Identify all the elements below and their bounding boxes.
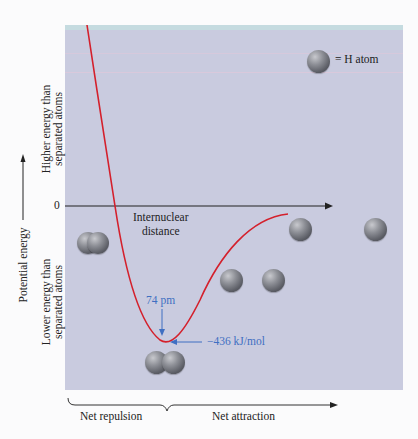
net-attraction-label: Net attraction bbox=[212, 410, 275, 422]
y-upper-line-2: separated atoms bbox=[52, 74, 64, 184]
bond-length-arrowhead bbox=[159, 329, 165, 336]
h-atom-near bbox=[262, 269, 285, 292]
diagram-graphics bbox=[0, 0, 418, 439]
y-axis-title: Potential energy bbox=[17, 205, 29, 325]
bottom-axis-arrowhead bbox=[330, 402, 338, 408]
bond-energy-label: −436 kJ/mol bbox=[207, 335, 265, 347]
x-axis-title: Internuclear distance bbox=[133, 210, 189, 238]
potential-energy-curve bbox=[87, 25, 288, 342]
h-atom-separated bbox=[364, 218, 387, 241]
y-lower-line-1: Lower energy than bbox=[40, 247, 52, 357]
h2-molecule-compressed-atom bbox=[87, 232, 109, 254]
zero-label: 0 bbox=[54, 199, 60, 211]
y-axis-arrowhead bbox=[21, 154, 26, 162]
x-title-line-2: distance bbox=[133, 224, 189, 238]
bond-length-label: 74 pm bbox=[146, 294, 175, 306]
h-atom-separated bbox=[289, 218, 312, 241]
x-axis-arrowhead bbox=[325, 203, 333, 210]
h-atom-legend-icon bbox=[307, 50, 330, 73]
y-lower-line-2: separated atoms bbox=[52, 247, 64, 357]
legend-label: = H atom bbox=[335, 53, 379, 65]
x-title-line-1: Internuclear bbox=[133, 210, 189, 224]
h2-molecule-bonded-atom bbox=[162, 351, 185, 374]
net-repulsion-label: Net repulsion bbox=[80, 410, 142, 422]
h-atom-near bbox=[220, 269, 243, 292]
y-upper-line-1: Higher energy than bbox=[40, 74, 52, 184]
y-upper-region-label: Higher energy than separated atoms bbox=[40, 74, 64, 184]
y-lower-region-label: Lower energy than separated atoms bbox=[40, 247, 64, 357]
